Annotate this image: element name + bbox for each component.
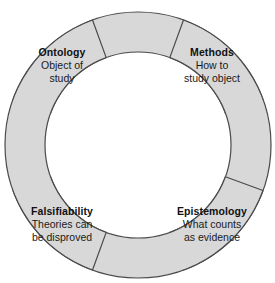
label-ontology-title: Ontology [14, 46, 110, 59]
label-epistemology-line-1: What counts [164, 218, 260, 231]
research-philosophy-cycle-diagram: Ontology Object of study Methods How to … [0, 0, 275, 283]
label-methods-title: Methods [164, 46, 260, 59]
label-methods-line-2: study object [164, 72, 260, 85]
label-falsifiability-title: Falsifiability [14, 205, 110, 218]
label-ontology-line-2: study [14, 72, 110, 85]
label-falsifiability: Falsifiability Theories can be disproved [14, 205, 110, 244]
label-epistemology: Epistemology What counts as evidence [164, 205, 260, 244]
label-ontology-line-1: Object of [14, 59, 110, 72]
label-epistemology-title: Epistemology [164, 205, 260, 218]
label-methods-line-1: How to [164, 59, 260, 72]
label-falsifiability-line-1: Theories can [14, 218, 110, 231]
label-falsifiability-line-2: be disproved [14, 231, 110, 244]
label-epistemology-line-2: as evidence [164, 231, 260, 244]
label-ontology: Ontology Object of study [14, 46, 110, 85]
label-methods: Methods How to study object [164, 46, 260, 85]
